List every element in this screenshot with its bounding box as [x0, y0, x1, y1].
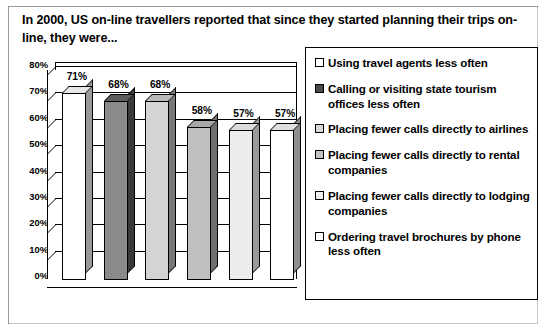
- y-axis-tick-label: 10%: [29, 243, 48, 254]
- bar: [62, 93, 86, 280]
- y-axis-tick-label: 70%: [29, 85, 48, 96]
- legend-item[interactable]: Placing fewer calls directly to rental c…: [315, 148, 531, 178]
- legend-item[interactable]: Placing fewer calls directly to lodging …: [315, 189, 531, 219]
- legend-box: Using travel agents less oftenCalling or…: [305, 47, 538, 300]
- bar-side-face: [86, 79, 93, 273]
- bar-side-face: [294, 116, 301, 273]
- legend-swatch-icon: [315, 232, 324, 241]
- bar-value-label: 58%: [179, 105, 225, 116]
- bar-value-label: 57%: [262, 108, 308, 119]
- y-axis-tick-label: 80%: [29, 59, 48, 70]
- legend-item-label: Using travel agents less often: [328, 56, 488, 71]
- legend-swatch-icon: [315, 58, 324, 67]
- bar: [145, 101, 169, 280]
- bar-value-label: 71%: [54, 71, 100, 82]
- legend-swatch-icon: [315, 124, 324, 133]
- chart-page: In 2000, US on-line travellers reported …: [0, 0, 549, 336]
- bar: [187, 127, 211, 280]
- bar-front-face: [104, 101, 128, 280]
- bar-value-label: 57%: [221, 108, 267, 119]
- legend-items: Using travel agents less oftenCalling or…: [315, 56, 531, 295]
- bar: [104, 101, 128, 280]
- y-axis-tick-label: 40%: [29, 164, 48, 175]
- bar-series: [55, 62, 297, 280]
- bar-front-face: [270, 130, 294, 280]
- bar-front-face: [229, 130, 253, 280]
- legend-item-label: Placing fewer calls directly to lodging …: [328, 189, 531, 219]
- legend-item[interactable]: Ordering travel brochures by phone less …: [315, 230, 531, 260]
- bar-value-label: 68%: [137, 79, 183, 90]
- y-axis-tick-label: 20%: [29, 217, 48, 228]
- y-axis-tick-label: 60%: [29, 111, 48, 122]
- bar-side-face: [128, 87, 135, 273]
- legend-item-label: Calling or visiting state tourism office…: [328, 82, 531, 112]
- bar-side-face: [211, 113, 218, 273]
- y-axis-tick-label: 50%: [29, 138, 48, 149]
- bar: [229, 130, 253, 280]
- legend-item-label: Placing fewer calls directly to rental c…: [328, 148, 531, 178]
- bar: [270, 130, 294, 280]
- legend-swatch-icon: [315, 150, 324, 159]
- plot-wrapper: 80%70%60%50%40%30%20%10%0% 71%68%68%58%5…: [14, 58, 304, 296]
- y-axis-tick-label: 30%: [29, 190, 48, 201]
- bar-side-face: [169, 87, 176, 273]
- legend-swatch-icon: [315, 191, 324, 200]
- plot-area: 71%68%68%58%57%57%: [47, 62, 297, 288]
- bar-value-label: 68%: [96, 79, 142, 90]
- y-axis-labels: 80%70%60%50%40%30%20%10%0%: [14, 58, 48, 290]
- legend-item[interactable]: Using travel agents less often: [315, 56, 531, 71]
- legend-item-label: Placing fewer calls directly to airlines: [328, 122, 528, 137]
- legend-item[interactable]: Calling or visiting state tourism office…: [315, 82, 531, 112]
- bar-front-face: [145, 101, 169, 280]
- chart-title: In 2000, US on-line travellers reported …: [22, 12, 522, 48]
- y-axis-tick-label: 0%: [34, 270, 48, 281]
- legend-item-label: Ordering travel brochures by phone less …: [328, 230, 531, 260]
- legend-swatch-icon: [315, 84, 324, 93]
- plot-floor: [47, 279, 297, 288]
- legend-item[interactable]: Placing fewer calls directly to airlines: [315, 122, 531, 137]
- bar-front-face: [62, 93, 86, 280]
- bar-front-face: [187, 127, 211, 280]
- bar-side-face: [253, 116, 260, 273]
